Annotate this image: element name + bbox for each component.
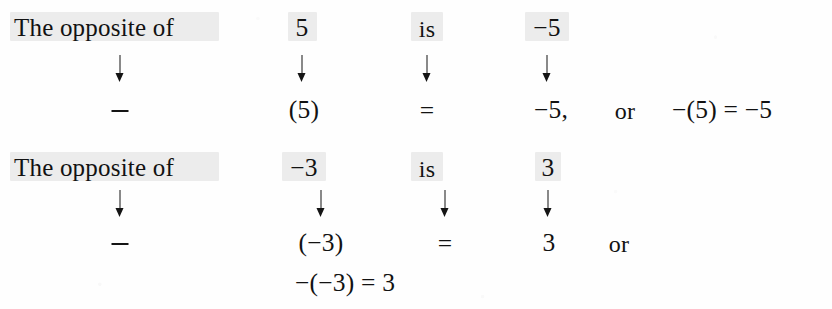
notation-operand-2: (−3) [299,230,344,256]
down-arrow-icon-1c [421,55,434,85]
alternative-equation-1: −(5) = −5 [672,97,772,123]
notation-equals-1: = [420,98,435,124]
statement-phrase-1: The opposite of [14,15,174,40]
notation-result-2: 3 [543,230,556,256]
statement-result-2: 3 [542,155,555,181]
down-arrow-icon-1a [114,55,127,85]
statement-operand-1: 5 [296,15,309,41]
alternative-label-2: or [609,232,629,256]
statement-phrase-2: The opposite of [14,155,174,180]
scanned-figure-canvas: The opposite of 5 is −5 − (5) = −5, or −… [0,0,832,309]
notation-operator-2 [112,243,129,245]
statement-result-1: −5 [533,15,561,41]
down-arrow-icon-2d [542,190,555,220]
notation-operand-1: (5) [289,97,319,123]
notation-operator-1 [112,110,129,112]
notation-result-1: −5, [534,97,568,123]
down-arrow-icon-1b [296,55,309,85]
down-arrow-icon-1d [541,55,554,85]
statement-operand-2: −3 [290,155,318,181]
statement-connector-1: is [419,17,435,41]
alternative-label-1: or [615,99,635,123]
continuation-equation-2: −(−3) = 3 [295,270,395,296]
down-arrow-icon-2a [114,190,127,220]
down-arrow-icon-2b [315,190,328,220]
down-arrow-icon-2c [439,190,452,220]
notation-equals-2: = [438,231,453,257]
statement-connector-2: is [419,157,435,181]
